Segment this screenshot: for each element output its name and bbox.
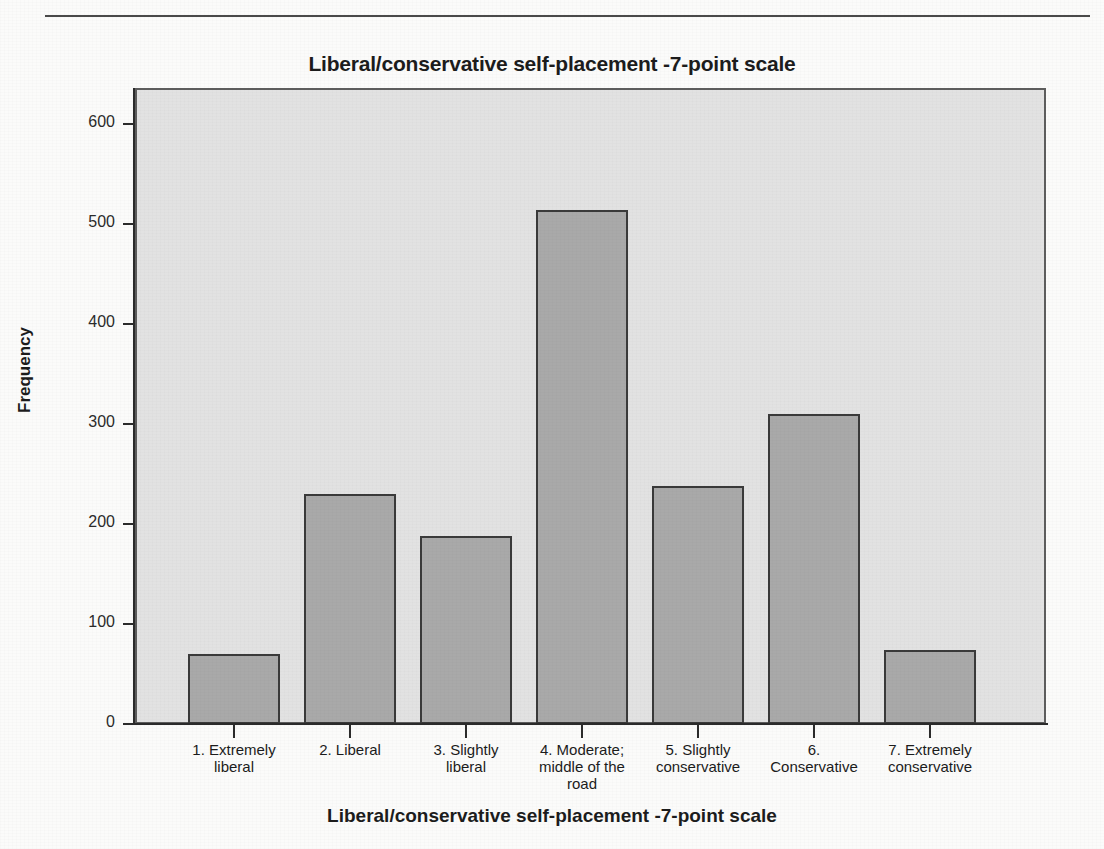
x-tick-mark	[349, 725, 351, 738]
bar	[884, 650, 976, 724]
x-tick-mark	[697, 725, 699, 738]
x-tick-mark	[465, 725, 467, 738]
bar	[652, 486, 744, 724]
x-tick-mark	[929, 725, 931, 738]
bar	[768, 414, 860, 724]
bar	[188, 654, 280, 724]
bar-series	[0, 0, 1104, 849]
x-tick-mark	[581, 725, 583, 738]
x-axis-line	[133, 723, 1048, 725]
x-tick-mark	[233, 725, 235, 738]
x-tick-mark	[813, 725, 815, 738]
bar	[536, 210, 628, 724]
bar	[420, 536, 512, 724]
y-axis-line	[133, 88, 135, 725]
bar	[304, 494, 396, 724]
